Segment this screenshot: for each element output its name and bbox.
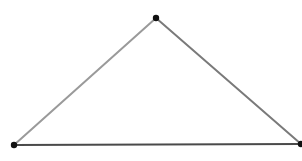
triangle-diagram [0, 0, 302, 161]
base-edge [14, 144, 301, 145]
vertex-bottom-left [11, 142, 17, 148]
left-edge [14, 18, 156, 145]
right-edge [156, 18, 301, 144]
vertex-top [153, 15, 159, 21]
diagram-canvas [0, 0, 302, 161]
